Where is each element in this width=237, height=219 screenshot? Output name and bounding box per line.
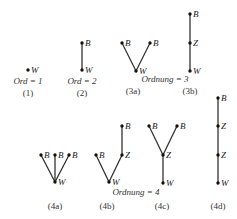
tree-node (67, 153, 70, 156)
order-label: Ordnung = 3 (141, 74, 189, 84)
tree-node (94, 153, 97, 156)
tree-4d: BZZW (216, 93, 230, 188)
node-label: W (166, 178, 175, 188)
tree-node (53, 180, 56, 183)
tree-node (147, 124, 150, 127)
tree-node (80, 41, 83, 44)
tree-node (39, 153, 42, 156)
node-label: W (193, 66, 202, 76)
tree-node (120, 41, 123, 44)
tree-node (107, 180, 110, 183)
tree-node (161, 181, 164, 184)
tree-node (161, 153, 164, 156)
tree-node (120, 124, 123, 127)
node-label: B (152, 121, 158, 131)
tree-3a: BBW (120, 38, 159, 76)
tree-node (53, 153, 56, 156)
node-label: B (99, 150, 105, 160)
tree-2: BW (80, 38, 94, 75)
tree-caption: (2) (77, 88, 88, 98)
node-label: W (85, 65, 94, 75)
node-label: B (58, 150, 64, 160)
tree-node (188, 69, 191, 72)
node-label: B (44, 150, 50, 160)
node-label: Z (193, 38, 199, 48)
node-label: Z (166, 150, 172, 160)
tree-node (188, 12, 191, 15)
node-label: W (221, 178, 230, 188)
tree-node (175, 124, 178, 127)
tree-caption: (4c) (155, 201, 170, 211)
tree-node (26, 68, 29, 71)
rooted-trees-diagram: WBWBBWBZWBBBWBBZWBBZWBZZWOrd = 1Ord = 2O… (0, 0, 237, 219)
node-label: B (72, 150, 78, 160)
tree-node (188, 41, 191, 44)
tree-caption: (3b) (183, 86, 198, 96)
node-label: B (125, 121, 131, 131)
tree-caption: (3a) (126, 86, 141, 96)
tree-4a: BBBW (39, 150, 78, 187)
tree-node (216, 124, 219, 127)
node-label: Z (221, 121, 227, 131)
order-label: Ordnung = 4 (112, 187, 160, 197)
node-label: B (180, 121, 186, 131)
node-label: B (153, 38, 159, 48)
node-label: B (193, 9, 199, 19)
tree-1: W (26, 65, 40, 75)
tree-node (216, 96, 219, 99)
node-label: B (125, 38, 131, 48)
tree-3b: BZW (188, 9, 202, 76)
node-label: W (112, 177, 121, 187)
node-label: W (58, 177, 67, 187)
tree-node (216, 153, 219, 156)
tree-4c: BBZW (147, 121, 186, 188)
tree-node (80, 68, 83, 71)
order-label: Ord = 2 (67, 76, 97, 86)
node-label: Z (221, 150, 227, 160)
node-label: B (221, 93, 227, 103)
tree-caption: (1) (23, 88, 34, 98)
tree-4b: BBZW (94, 121, 131, 187)
tree-caption: (4a) (48, 201, 63, 211)
tree-node (134, 69, 137, 72)
tree-node (120, 153, 123, 156)
node-label: B (85, 38, 91, 48)
node-label: W (31, 65, 40, 75)
order-label: Ord = 1 (13, 76, 42, 86)
tree-node (216, 181, 219, 184)
tree-caption: (4d) (211, 201, 226, 211)
tree-caption: (4b) (100, 201, 115, 211)
tree-node (148, 41, 151, 44)
node-label: Z (125, 150, 131, 160)
